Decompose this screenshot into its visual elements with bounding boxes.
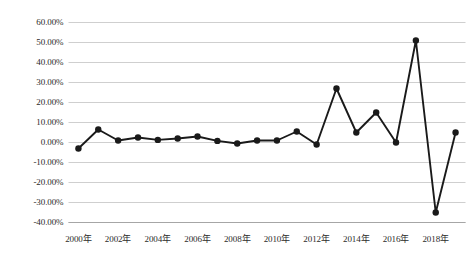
data-point [373,109,379,115]
y-axis-tick-label: -20.00% [33,177,63,187]
data-point [155,137,161,143]
y-axis-tick-label: 50.00% [36,37,63,47]
chart-container: 60.00%50.00%40.00%30.00%20.00%10.00%0.00… [0,0,474,261]
y-axis-tick-label: 10.00% [36,117,63,127]
y-axis-tick-label: -10.00% [33,157,63,167]
y-axis-tick-label: 40.00% [36,57,63,67]
data-point [194,133,200,139]
data-point [214,138,220,144]
data-point [234,140,240,146]
y-axis-tick-label: 60.00% [36,17,63,27]
y-axis-tick-label: -40.00% [33,217,63,227]
data-point [313,141,319,147]
data-point [353,129,359,135]
y-axis-tick-label: 30.00% [36,77,63,87]
data-point [274,137,280,143]
data-point [393,139,399,145]
line-chart-plot [0,0,474,261]
data-point [413,37,419,43]
x-axis-tick-label: 2018年 [412,232,460,245]
data-point [174,135,180,141]
y-axis-tick-label: 0.00% [41,137,64,147]
data-point [294,128,300,134]
data-point [95,126,101,132]
gridlines [69,23,466,223]
data-point-markers [75,37,459,215]
data-point [333,85,339,91]
data-series-line [78,41,455,213]
data-point [452,129,458,135]
series-polyline [78,41,455,213]
y-axis-tick-label: 20.00% [36,97,63,107]
data-point [75,145,81,151]
data-point [135,134,141,140]
y-axis-tick-label: -30.00% [33,197,63,207]
data-point [254,137,260,143]
data-point [115,137,121,143]
data-point [433,209,439,215]
